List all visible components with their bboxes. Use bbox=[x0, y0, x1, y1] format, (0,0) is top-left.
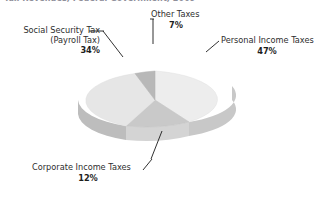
leader-personal-income-taxes bbox=[206, 41, 219, 52]
callout-personal-income-taxes-label: Personal Income Taxes bbox=[221, 36, 314, 46]
callout-social-security-tax: Social Security Tax (Payroll Tax) 34% bbox=[8, 26, 100, 55]
callout-personal-income-taxes-value: 47% bbox=[221, 46, 313, 56]
callout-other-taxes: Other Taxes 7% bbox=[151, 10, 203, 30]
callout-corporate-income-taxes-label: Corporate Income Taxes bbox=[32, 163, 144, 173]
callout-social-security-tax-value: 34% bbox=[8, 45, 100, 55]
pie-top-face bbox=[86, 71, 218, 127]
pie-chart-figure: Tax Revenues, Federal Government, 2009 bbox=[0, 0, 325, 198]
callout-corporate-income-taxes: Corporate Income Taxes 12% bbox=[32, 163, 144, 183]
callout-corporate-income-taxes-value: 12% bbox=[32, 173, 144, 183]
callout-social-security-tax-label-line2: (Payroll Tax) bbox=[8, 36, 100, 46]
callout-other-taxes-value: 7% bbox=[149, 20, 203, 30]
callout-personal-income-taxes: Personal Income Taxes 47% bbox=[221, 36, 314, 56]
callout-other-taxes-label: Other Taxes bbox=[151, 10, 203, 20]
